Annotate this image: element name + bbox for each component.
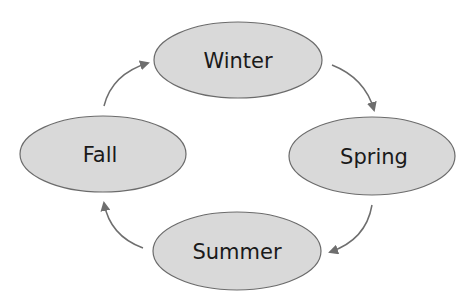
arrow-spring-to-summer: [330, 205, 372, 252]
node-fall: Fall: [20, 116, 186, 192]
node-summer: Summer: [153, 212, 321, 290]
season-cycle-diagram: Winter Spring Summer Fall: [0, 0, 469, 299]
node-spring: Spring: [289, 117, 455, 195]
node-label: Fall: [83, 143, 118, 167]
node-label: Summer: [192, 240, 281, 264]
node-winter: Winter: [154, 22, 322, 98]
node-label: Winter: [203, 49, 273, 73]
node-label: Spring: [340, 145, 408, 169]
arrow-summer-to-fall: [104, 203, 143, 248]
arrow-winter-to-spring: [332, 65, 374, 110]
arrow-fall-to-winter: [104, 63, 148, 106]
